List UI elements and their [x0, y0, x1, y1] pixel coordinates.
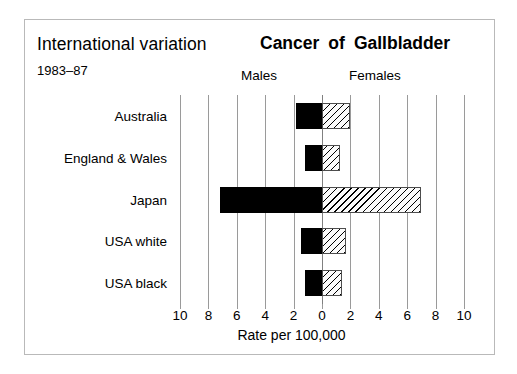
bar-females-england-wales [322, 145, 340, 171]
bar-males-usa-white [301, 228, 322, 254]
bar-males-england-wales [305, 145, 322, 171]
gridline-10-right [464, 95, 465, 304]
x-tick-label: 2 [290, 308, 298, 323]
bar-females-japan [322, 187, 421, 213]
gridline-8-left [208, 95, 209, 304]
category-label-japan: Japan [130, 192, 167, 207]
bar-females-usa-white [322, 228, 346, 254]
bar-females-australia [322, 103, 350, 129]
category-label-usa-black: USA black [105, 276, 167, 291]
gridline-10-left [180, 95, 181, 304]
x-tick-label: 10 [172, 308, 187, 323]
category-label-usa-white: USA white [105, 234, 167, 249]
category-label-england-wales: England & Wales [64, 150, 167, 165]
x-tick-label: 6 [403, 308, 411, 323]
category-label-australia: Australia [114, 108, 167, 123]
gridline-8-right [436, 95, 437, 304]
x-tick-label: 4 [375, 308, 383, 323]
x-tick-label: 10 [456, 308, 471, 323]
bar-males-usa-black [305, 270, 322, 296]
x-tick-label: 0 [318, 308, 326, 323]
x-tick-label: 8 [205, 308, 213, 323]
x-tick-label: 6 [233, 308, 241, 323]
x-tick-label: 8 [432, 308, 440, 323]
x-axis-title: Rate per 100,000 [25, 327, 496, 343]
chart-figure: International variation 1983–87 Cancerof… [24, 19, 495, 355]
bar-males-japan [220, 187, 322, 213]
plot-area: 1086420246810AustraliaEngland & WalesJap… [25, 20, 496, 356]
x-tick-label: 4 [261, 308, 269, 323]
x-tick-label: 2 [347, 308, 355, 323]
bar-males-australia [296, 103, 322, 129]
bar-females-usa-black [322, 270, 342, 296]
